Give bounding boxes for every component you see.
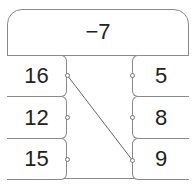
right-connector-2[interactable] <box>130 115 135 120</box>
right-connector-3[interactable] <box>130 158 135 163</box>
right-connector-1[interactable] <box>130 73 135 78</box>
connection-line-16-to-9 <box>67 75 133 161</box>
left-connector-2[interactable] <box>65 115 70 120</box>
left-connector-1[interactable] <box>65 73 70 78</box>
left-connector-3[interactable] <box>65 157 70 162</box>
connection-lines <box>0 0 195 187</box>
